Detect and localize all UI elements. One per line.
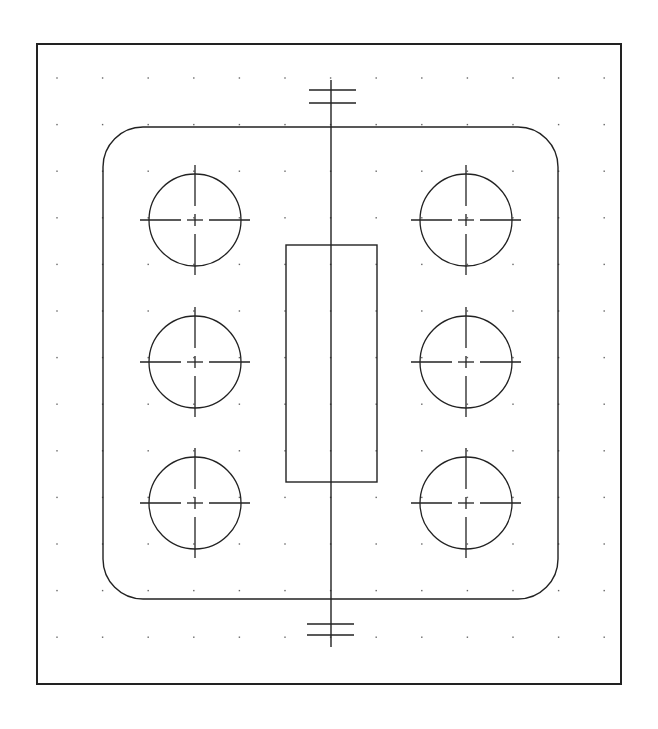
grid-dot: [467, 264, 468, 265]
grid-dot: [467, 77, 468, 78]
grid-dot: [239, 310, 240, 311]
grid-dot: [284, 124, 285, 125]
grid-dot: [467, 497, 468, 498]
grid-dot: [421, 171, 422, 172]
grid-dot: [56, 264, 57, 265]
grid-dot: [193, 450, 194, 451]
grid-dot: [330, 77, 331, 78]
grid-dot: [376, 124, 377, 125]
grid-dot: [56, 171, 57, 172]
grid-dot: [376, 77, 377, 78]
grid-dot: [376, 171, 377, 172]
grid-dot: [421, 543, 422, 544]
grid-dot: [56, 357, 57, 358]
drawing-canvas: [0, 0, 658, 729]
grid-dot: [193, 124, 194, 125]
grid-dot: [604, 310, 605, 311]
grid-dot: [239, 264, 240, 265]
grid-dot: [512, 264, 513, 265]
grid-dot: [102, 77, 103, 78]
grid-dot: [421, 497, 422, 498]
grid-dot: [376, 637, 377, 638]
grid-dot: [421, 404, 422, 405]
grid-dot: [558, 77, 559, 78]
hole: [140, 448, 250, 558]
grid-dot: [421, 124, 422, 125]
drawing-border: [37, 44, 621, 684]
grid-dot: [148, 637, 149, 638]
grid-dot: [239, 590, 240, 591]
grid-dot: [512, 637, 513, 638]
grid-dot: [467, 450, 468, 451]
grid-dot: [467, 357, 468, 358]
grid-dot: [102, 124, 103, 125]
grid-dot: [56, 543, 57, 544]
hole: [140, 165, 250, 275]
grid-dot: [512, 497, 513, 498]
grid-dot: [284, 637, 285, 638]
grid-dot: [376, 590, 377, 591]
grid-dot: [148, 590, 149, 591]
grid-dot: [56, 497, 57, 498]
grid-dot: [239, 637, 240, 638]
grid-dot: [512, 404, 513, 405]
grid-dot: [148, 171, 149, 172]
grid-dot: [376, 497, 377, 498]
grid-dot: [512, 357, 513, 358]
grid-dot: [604, 404, 605, 405]
grid-dot: [467, 171, 468, 172]
grid-dot: [56, 310, 57, 311]
grid-dot: [193, 217, 194, 218]
grid-dot: [421, 357, 422, 358]
grid-dot: [148, 404, 149, 405]
grid-dot: [284, 543, 285, 544]
grid-dot: [239, 171, 240, 172]
grid-dot: [56, 450, 57, 451]
grid-dot: [148, 77, 149, 78]
grid-dot: [239, 77, 240, 78]
grid-dot: [604, 543, 605, 544]
hole: [411, 307, 521, 417]
grid-dot: [193, 637, 194, 638]
grid-dot: [558, 637, 559, 638]
grid-dot: [421, 310, 422, 311]
grid-dot: [148, 450, 149, 451]
grid-dot: [284, 217, 285, 218]
grid-dot: [239, 124, 240, 125]
grid-dot: [193, 404, 194, 405]
grid-dot: [558, 124, 559, 125]
grid-dot: [512, 590, 513, 591]
grid-dot: [467, 310, 468, 311]
grid-dot: [604, 217, 605, 218]
grid-dot: [604, 171, 605, 172]
grid-dot: [467, 217, 468, 218]
grid-dot: [193, 357, 194, 358]
grid-dot: [239, 217, 240, 218]
grid-dot: [604, 264, 605, 265]
grid-dot: [421, 590, 422, 591]
grid-dot: [284, 77, 285, 78]
grid-dot: [604, 590, 605, 591]
grid-dot: [512, 124, 513, 125]
grid-dot: [376, 217, 377, 218]
grid-dot: [193, 310, 194, 311]
grid-dot: [604, 357, 605, 358]
grid-dot: [56, 124, 57, 125]
grid-dot: [239, 543, 240, 544]
grid-dot: [467, 637, 468, 638]
grid-dot: [512, 77, 513, 78]
grid-dot: [284, 171, 285, 172]
grid-dot: [467, 543, 468, 544]
grid-dot: [148, 124, 149, 125]
grid-dot: [467, 590, 468, 591]
grid-dot: [56, 404, 57, 405]
grid-dot: [193, 543, 194, 544]
grid-dot: [604, 124, 605, 125]
hole: [140, 307, 250, 417]
grid-dot: [421, 77, 422, 78]
grid-dot: [148, 310, 149, 311]
grid-dot: [421, 264, 422, 265]
grid-dot: [148, 264, 149, 265]
grid-dot: [604, 450, 605, 451]
grid-dot: [239, 497, 240, 498]
